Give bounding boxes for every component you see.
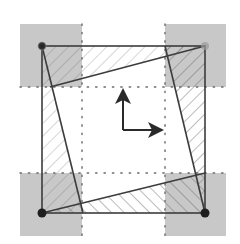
diagram-canvas <box>0 0 240 244</box>
diagram-svg <box>0 0 240 244</box>
corner-point-top-right <box>201 42 209 50</box>
corner-point-bottom-left <box>38 209 47 218</box>
corner-point-bottom-right <box>201 209 210 218</box>
corner-point-top-left <box>38 42 47 51</box>
axis-arrows <box>123 92 160 130</box>
